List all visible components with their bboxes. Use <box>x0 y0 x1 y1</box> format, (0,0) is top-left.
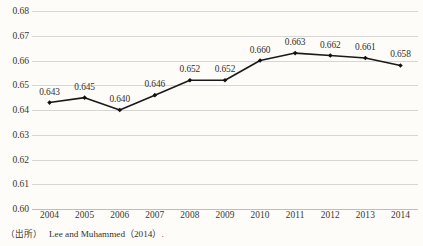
data-point-label: 0.658 <box>390 50 411 59</box>
data-point-label: 0.645 <box>74 82 95 91</box>
x-tick-label: 2009 <box>215 211 234 220</box>
source-tag: （出所） <box>6 229 42 239</box>
x-tick-label: 2011 <box>286 211 305 220</box>
y-axis-tick-labels: 0.680.670.660.650.640.630.620.610.60 <box>0 11 29 209</box>
x-tick-label: 2005 <box>75 211 94 220</box>
data-point-label: 0.652 <box>215 65 236 74</box>
y-tick-label: 0.65 <box>1 80 29 90</box>
chart-figure: 0.680.670.660.650.640.630.620.610.60 0.6… <box>0 0 423 246</box>
y-tick-label: 0.68 <box>1 6 29 16</box>
data-point-marker <box>117 108 122 113</box>
data-point-label: 0.646 <box>145 80 166 89</box>
x-tick-label: 2007 <box>145 211 164 220</box>
source-reference: Lee and Muhammed（2014）. <box>49 229 164 239</box>
data-point-marker <box>153 93 158 98</box>
data-point-marker <box>328 53 333 58</box>
data-point-label: 0.663 <box>285 38 306 47</box>
x-tick-label: 2012 <box>321 211 340 220</box>
plot-area: 0.6430.6450.6400.6460.6520.6520.6600.663… <box>32 11 418 209</box>
x-tick-label: 2006 <box>110 211 129 220</box>
data-point-label: 0.662 <box>320 40 341 49</box>
y-tick-label: 0.62 <box>1 155 29 165</box>
y-tick-label: 0.60 <box>1 204 29 214</box>
x-tick-label: 2014 <box>391 211 410 220</box>
y-tick-label: 0.66 <box>1 56 29 66</box>
data-point-label: 0.660 <box>250 45 271 54</box>
data-point-marker <box>82 95 87 100</box>
x-tick-label: 2013 <box>356 211 375 220</box>
data-point-label: 0.661 <box>355 43 376 52</box>
y-tick-label: 0.61 <box>1 179 29 189</box>
x-tick-label: 2008 <box>180 211 199 220</box>
x-tick-label: 2004 <box>40 211 59 220</box>
data-point-label: 0.640 <box>109 95 130 104</box>
source-note: （出所）Lee and Muhammed（2014）. <box>6 229 164 240</box>
data-point-marker <box>188 78 193 83</box>
data-point-marker <box>363 56 368 61</box>
y-tick-label: 0.63 <box>1 130 29 140</box>
y-tick-label: 0.67 <box>1 31 29 41</box>
data-point-marker <box>398 63 403 68</box>
x-tick-label: 2010 <box>251 211 270 220</box>
data-point-marker <box>293 51 298 56</box>
data-point-label: 0.643 <box>39 87 60 96</box>
x-axis-tick-labels: 2004200520062007200820092010201120122013… <box>32 211 418 227</box>
y-tick-label: 0.64 <box>1 105 29 115</box>
data-point-label: 0.652 <box>180 65 201 74</box>
data-point-marker <box>47 100 52 105</box>
